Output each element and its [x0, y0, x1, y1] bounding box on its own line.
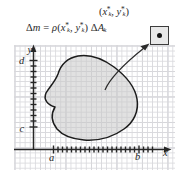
y-tick-label-d: d — [19, 56, 24, 67]
delta-symbol: Δ — [26, 22, 33, 33]
close-paren: ) — [85, 22, 89, 33]
sample-point-dot — [157, 33, 162, 38]
k-subscript-area: k — [103, 26, 106, 33]
mass-element-formula: Δm = ρ(x*k, y*k) ΔAk — [26, 22, 106, 34]
sample-point-label: (x*k, y*k) — [99, 6, 129, 18]
y-axis-label: y — [28, 45, 33, 56]
equals-symbol: = — [43, 22, 49, 33]
x-tick-label-a: a — [49, 153, 54, 164]
point-comma: , — [111, 6, 114, 17]
m-symbol: m — [33, 22, 41, 33]
comma-symbol: , — [70, 22, 73, 33]
delta-area-symbol: Δ — [91, 22, 98, 33]
math-figure: Δm = ρ(x*k, y*k) ΔAk (x*k, y*k) y x d c … — [0, 0, 175, 179]
point-close-paren: ) — [125, 6, 129, 17]
sample-point-swatch — [150, 26, 169, 45]
x-axis-label: x — [163, 148, 168, 159]
y-tick-label-c: c — [20, 124, 25, 135]
x-tick-label-b: b — [135, 152, 140, 163]
region-r-fill — [45, 56, 137, 141]
